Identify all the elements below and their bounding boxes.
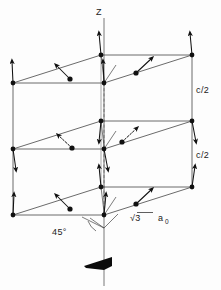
label-base-a: a <box>158 213 163 223</box>
label-height-upper: c/2 <box>196 85 209 95</box>
label-radical-three: √3 <box>130 213 141 223</box>
label-height-lower: c/2 <box>196 150 209 160</box>
wedge-mid <box>101 121 116 149</box>
angle-indicator-group <box>82 217 104 231</box>
wedge-bottom <box>101 187 116 215</box>
moment-midface-left <box>58 135 72 148</box>
axis-label-z: Z <box>96 7 102 17</box>
flag-shadow <box>84 266 112 270</box>
unit-cell-diagram: Z c/2 c/2 45° √3 a 0 <box>0 0 221 290</box>
moment-MFL <box>13 149 16 170</box>
moment-midface-right <box>122 128 137 142</box>
moment-BBR <box>192 166 195 187</box>
moment-TBR <box>190 33 192 55</box>
angle-leg <box>82 217 104 228</box>
angle-arc-45 <box>88 221 96 231</box>
moment-TFL <box>12 61 13 83</box>
axis-flag-arrow <box>84 257 112 270</box>
label-angle-45: 45° <box>52 227 67 237</box>
label-base-subscript: 0 <box>165 218 169 225</box>
figure-root: Z c/2 c/2 45° √3 a 0 <box>0 0 221 290</box>
moment-MFR <box>104 149 108 170</box>
moment-botface-left <box>56 195 70 209</box>
flag-shape <box>84 257 112 266</box>
moment-topface-right <box>136 58 152 73</box>
label-lattice-parameter: √3 a 0 <box>130 213 169 225</box>
diagram-labels: Z c/2 c/2 45° √3 a 0 <box>52 7 209 237</box>
moment-TBL <box>99 33 101 55</box>
moment-botface-right <box>136 189 152 204</box>
moment-MBR <box>192 121 196 142</box>
